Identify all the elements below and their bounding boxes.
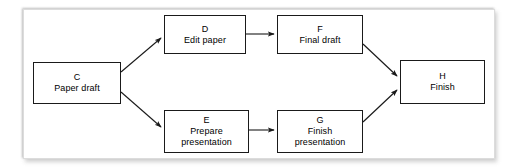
node-c-label: Paper draft: [54, 83, 100, 94]
node-c[interactable]: C Paper draft: [33, 62, 121, 104]
node-f-id: F: [317, 24, 323, 35]
node-d-label: Edit paper: [184, 35, 226, 46]
node-h-label: Finish: [430, 82, 455, 93]
node-f-label: Final draft: [299, 35, 340, 46]
node-e[interactable]: E Prepare presentation: [164, 110, 249, 153]
node-c-id: C: [74, 72, 81, 83]
node-h[interactable]: H Finish: [400, 60, 485, 104]
node-d[interactable]: D Edit paper: [164, 15, 246, 54]
node-d-id: D: [202, 24, 209, 35]
node-f[interactable]: F Final draft: [277, 15, 363, 54]
node-g-label: Finish presentation: [295, 126, 346, 148]
node-g[interactable]: G Finish presentation: [277, 110, 363, 153]
node-h-id: H: [439, 71, 446, 82]
node-e-label: Prepare presentation: [181, 126, 232, 148]
node-g-id: G: [316, 115, 323, 126]
node-e-id: E: [203, 115, 209, 126]
diagram-canvas: C Paper draft D Edit paper F Final draft…: [0, 0, 508, 168]
